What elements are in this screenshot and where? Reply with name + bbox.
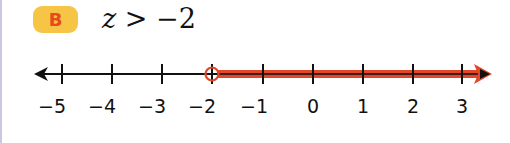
number-line: −5 −4 −3 −2 −1 0 1 2 3 — [0, 0, 510, 143]
tick-label: −1 — [240, 95, 268, 117]
tick-label: 3 — [456, 95, 468, 117]
tick-label: −2 — [188, 95, 216, 117]
tick-label: 1 — [357, 95, 369, 117]
tick-label: 2 — [407, 95, 419, 117]
tick-label: −4 — [88, 95, 116, 117]
tick-label: 0 — [307, 95, 319, 117]
tick-label: −5 — [38, 95, 66, 117]
tick-label: −3 — [138, 95, 166, 117]
